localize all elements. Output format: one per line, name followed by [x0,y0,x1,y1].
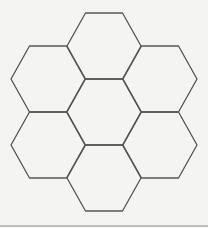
hexagon-bottom [67,145,141,211]
hexagon-group [11,13,197,211]
hexagon-top [67,13,141,79]
hexagon-lower-right [123,112,197,178]
hexagon-upper-left [11,46,85,112]
hexagon-diagram [0,0,208,228]
hexagon-center [67,79,141,145]
hexagon-upper-right [123,46,197,112]
hexagon-lower-left [11,112,85,178]
